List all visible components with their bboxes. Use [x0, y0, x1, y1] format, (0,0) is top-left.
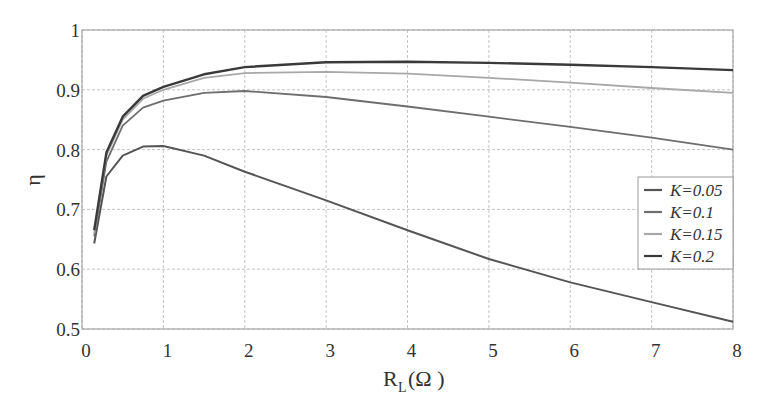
x-tick-label: 4 — [407, 340, 417, 361]
x-tick-label: 2 — [244, 340, 254, 361]
plot-frame — [82, 30, 733, 329]
x-axis-label-sub: L — [398, 380, 407, 395]
series-line-k-0-05 — [94, 146, 733, 322]
x-tick-label: 1 — [163, 340, 173, 361]
x-tick-label: 8 — [732, 340, 742, 361]
x-tick-label: 7 — [651, 340, 661, 361]
y-tick-label: 0.7 — [56, 199, 80, 220]
x-tick-label: 3 — [325, 340, 335, 361]
legend-label: K=0.1 — [669, 203, 714, 222]
x-axis-label-unit: (Ω ) — [408, 366, 445, 391]
grid-lines — [82, 30, 733, 329]
y-tick-label: 0.8 — [56, 140, 80, 161]
series-line-k-0-1 — [94, 91, 733, 236]
y-axis-ticks: 0.50.60.70.80.91 — [56, 20, 80, 340]
legend: K=0.05K=0.1K=0.15K=0.2 — [638, 177, 733, 269]
x-tick-label: 0 — [81, 340, 91, 361]
x-axis-label: R L (Ω ) — [383, 366, 445, 395]
data-series — [94, 62, 733, 322]
y-tick-label: 1 — [71, 20, 81, 41]
y-tick-label: 0.5 — [56, 319, 80, 340]
legend-label: K=0.15 — [669, 225, 723, 244]
x-tick-label: 6 — [570, 340, 580, 361]
legend-label: K=0.2 — [669, 247, 715, 266]
x-axis-label-main: R — [383, 366, 398, 391]
y-axis-label: η — [20, 174, 45, 186]
x-tick-label: 5 — [488, 340, 498, 361]
y-tick-label: 0.9 — [56, 80, 80, 101]
x-axis-ticks: 012345678 — [81, 340, 742, 361]
y-tick-label: 0.6 — [56, 259, 80, 280]
legend-label: K=0.05 — [669, 181, 723, 200]
efficiency-chart: 012345678 0.50.60.70.80.91 η R L (Ω ) K=… — [0, 0, 762, 416]
